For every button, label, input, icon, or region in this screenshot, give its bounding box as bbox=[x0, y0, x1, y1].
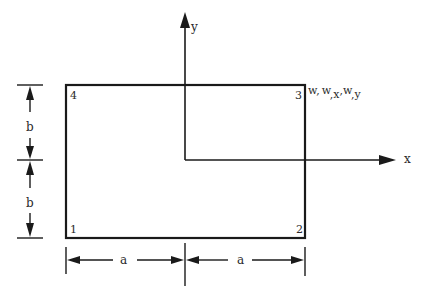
y-axis-arrow-icon bbox=[180, 12, 190, 28]
dim-arrow-left-icon bbox=[67, 256, 80, 264]
dim-arrow-left-icon bbox=[186, 256, 199, 264]
node-label-4: 4 bbox=[70, 89, 77, 102]
vertical-dimension: b b bbox=[17, 85, 43, 238]
x-axis: x bbox=[185, 152, 411, 166]
x-axis-arrow-icon bbox=[379, 155, 396, 165]
node-label-1: 1 bbox=[70, 223, 77, 236]
dim-arrow-down-icon bbox=[26, 146, 34, 159]
dim-arrow-up-icon bbox=[26, 86, 34, 100]
horizontal-dimension: a a bbox=[66, 243, 305, 286]
dimension-label-b-upper: b bbox=[26, 120, 34, 134]
node-label-3: 3 bbox=[295, 89, 302, 102]
dim-arrow-down-icon bbox=[26, 223, 34, 237]
dimension-label-a-right: a bbox=[237, 253, 244, 267]
dim-arrow-up-icon bbox=[26, 161, 34, 175]
dimension-label-b-lower: b bbox=[26, 196, 34, 210]
y-axis-label: y bbox=[190, 20, 198, 34]
dim-arrow-right-icon bbox=[171, 256, 184, 264]
plate-element-diagram: y x 4 3 1 2 w,w,x,w,y b b bbox=[0, 0, 426, 299]
dimension-label-a-left: a bbox=[120, 253, 127, 267]
node-label-2: 2 bbox=[296, 223, 303, 236]
dim-arrow-right-icon bbox=[291, 256, 304, 264]
x-axis-label: x bbox=[404, 152, 411, 166]
node3-dof-label: w,w,x,w,y bbox=[308, 84, 362, 101]
